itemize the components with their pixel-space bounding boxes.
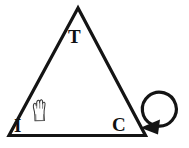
- hand-icon: [33, 100, 45, 121]
- vertex-label-top: T: [68, 26, 81, 47]
- tic-triangle-diagram: T I C: [0, 0, 189, 148]
- diagram-canvas: T I C: [0, 0, 189, 148]
- rotate-arrow-icon: [141, 92, 177, 134]
- vertex-label-bottom-right: C: [112, 114, 126, 135]
- vertex-label-bottom-left: I: [14, 115, 21, 136]
